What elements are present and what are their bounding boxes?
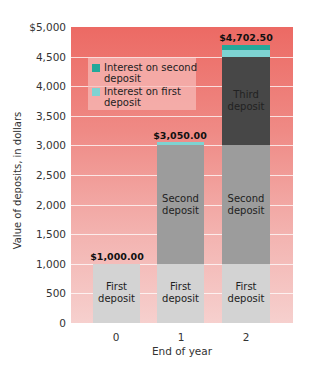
segment-label: deposit — [162, 205, 199, 217]
segment-label: Second — [162, 193, 199, 205]
segment-first-deposit: Firstdeposit — [93, 264, 140, 323]
y-tick: 3,500 — [36, 110, 66, 122]
segment-label: deposit — [228, 293, 265, 305]
y-tick: 500 — [46, 287, 66, 299]
legend-label: Interest on second deposit — [104, 62, 199, 84]
segment-second-deposit: Seconddeposit — [222, 145, 270, 263]
legend-item-interest-first: Interest on first deposit — [92, 86, 199, 108]
segment-first-deposit: Firstdeposit — [222, 264, 270, 323]
total-label-year-2: $4,702.50 — [219, 32, 273, 43]
x-tick: 2 — [243, 331, 250, 343]
y-tick: 1,000 — [36, 258, 66, 270]
bar-year-1: Seconddeposit Firstdeposit — [157, 142, 204, 323]
y-tick: 1,500 — [36, 228, 66, 240]
y-tick: $5,000 — [29, 21, 66, 33]
segment-third-deposit: Thirddeposit — [222, 57, 270, 146]
x-axis-label: End of year — [152, 345, 212, 357]
segment-label: First — [162, 281, 199, 293]
y-tick: 3,000 — [36, 139, 66, 151]
y-tick: 4,500 — [36, 51, 66, 63]
total-label-year-1: $3,050.00 — [153, 130, 207, 141]
segment-label: Third — [228, 89, 265, 101]
bar-year-0: Firstdeposit — [93, 264, 140, 323]
segment-first-deposit: Firstdeposit — [157, 264, 204, 323]
segment-label: First — [228, 281, 265, 293]
segment-label: Second — [228, 193, 265, 205]
y-tick: 2,000 — [36, 199, 66, 211]
segment-label: deposit — [162, 293, 199, 305]
y-tick: 2,500 — [36, 169, 66, 181]
y-tick: 0 — [59, 317, 66, 329]
legend-swatch-icon — [92, 88, 100, 96]
x-tick: 1 — [178, 331, 185, 343]
total-label-year-0: $1,000.00 — [90, 251, 144, 262]
segment-label: deposit — [228, 205, 265, 217]
segment-label: First — [98, 281, 135, 293]
segment-second-deposit: Seconddeposit — [157, 145, 204, 263]
legend-swatch-icon — [92, 64, 100, 72]
segment-label: deposit — [228, 101, 265, 113]
bar-year-2: Thirddeposit Seconddeposit Firstdeposit — [222, 45, 270, 323]
legend-label: Interest on first deposit — [104, 86, 199, 108]
segment-label: deposit — [98, 293, 135, 305]
y-axis-label: Value of deposits, in dollars — [12, 106, 23, 256]
legend: Interest on second deposit Interest on f… — [88, 58, 196, 110]
legend-item-interest-second: Interest on second deposit — [92, 62, 199, 84]
x-tick: 0 — [113, 331, 120, 343]
y-tick: 4,000 — [36, 80, 66, 92]
